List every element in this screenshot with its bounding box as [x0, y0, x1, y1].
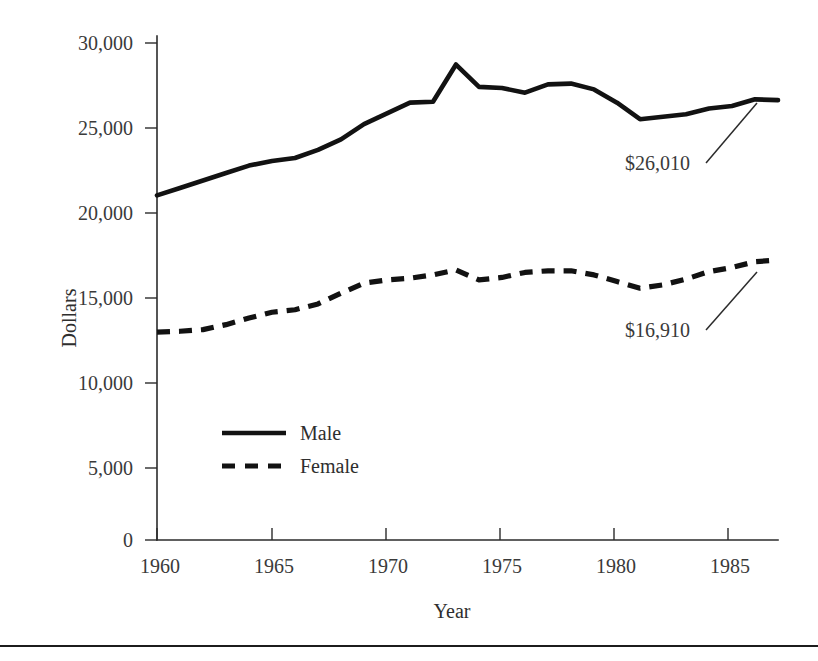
x-tick-label-1985: 1985 — [710, 555, 750, 577]
x-axis-ticks — [157, 528, 728, 540]
legend-item-male[interactable]: Male — [222, 422, 341, 444]
figure-container: Dollars 30,000 25,000 20,000 15,000 10,0… — [0, 0, 818, 661]
legend-item-female[interactable]: Female — [222, 455, 359, 477]
legend-label-male: Male — [300, 422, 341, 444]
y-tick-label-15000: 15,000 — [78, 287, 133, 309]
chart-legend: Male Female — [222, 422, 359, 477]
line-chart: Dollars 30,000 25,000 20,000 15,000 10,0… — [0, 0, 818, 661]
x-tick-label-1970: 1970 — [368, 555, 408, 577]
annotation-leader-male — [706, 103, 757, 163]
x-tick-label-1965: 1965 — [254, 555, 294, 577]
y-tick-label-10000: 10,000 — [78, 372, 133, 394]
x-tick-label-1960: 1960 — [140, 555, 180, 577]
y-axis-title: Dollars — [58, 288, 80, 347]
x-tick-label-1980: 1980 — [596, 555, 636, 577]
legend-label-female: Female — [300, 455, 359, 477]
x-axis-tick-labels: 1960 1965 1970 1975 1980 1985 — [140, 555, 750, 577]
x-tick-label-1975: 1975 — [482, 555, 522, 577]
series-line-male — [157, 65, 778, 196]
annotation-label-male: $26,010 — [625, 152, 690, 174]
y-tick-label-0: 0 — [123, 529, 133, 551]
annotation-label-female: $16,910 — [625, 319, 690, 341]
annotation-leader-female — [706, 272, 757, 330]
x-axis-title: Year — [434, 600, 471, 622]
y-tick-label-30000: 30,000 — [78, 32, 133, 54]
y-tick-label-25000: 25,000 — [78, 117, 133, 139]
annotation-female: $16,910 — [625, 272, 757, 341]
y-tick-label-5000: 5,000 — [88, 457, 133, 479]
y-tick-label-20000: 20,000 — [78, 202, 133, 224]
y-axis-ticks — [145, 43, 157, 540]
y-axis-tick-labels: 30,000 25,000 20,000 15,000 10,000 5,000… — [78, 32, 133, 551]
